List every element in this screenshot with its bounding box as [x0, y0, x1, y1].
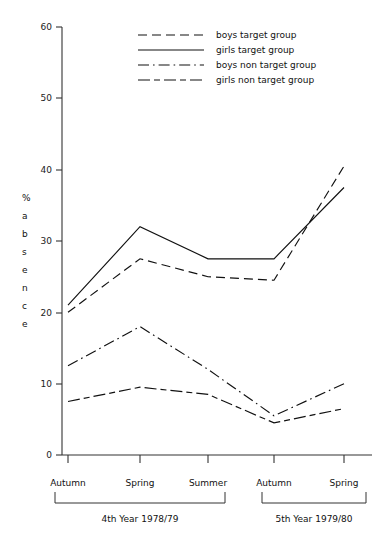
absence-line-chart: 60 50 40 30 20 10 0 % a b s e n c e — [0, 0, 381, 551]
data-series-group — [68, 166, 344, 423]
group-brackets: 4th Year 1978/79 5th Year 1979/80 — [55, 492, 366, 524]
x-axis — [62, 455, 372, 463]
y-tick-label-60: 60 — [41, 22, 53, 32]
y-tick-label-20: 20 — [41, 308, 53, 318]
x-category-label-2: Summer — [189, 478, 227, 488]
legend-label-girls-target-group: girls target group — [216, 45, 295, 55]
x-category-label-4: Spring — [329, 478, 358, 488]
x-category-labels: Autumn Spring Summer Autumn Spring — [50, 478, 358, 488]
y-axis-title-char-2: b — [22, 229, 28, 239]
y-tick-label-10: 10 — [41, 379, 53, 389]
group-bracket-5th-year — [262, 492, 366, 503]
y-axis-title-char-3: s — [22, 247, 27, 257]
x-category-label-1: Spring — [125, 478, 154, 488]
y-tick-label-0: 0 — [46, 450, 52, 460]
series-line-girls-non-target-group — [68, 387, 344, 423]
y-tick-label-40: 40 — [41, 165, 53, 175]
series-line-girls-target-group — [68, 188, 344, 306]
legend: boys target group girls target group boy… — [138, 30, 317, 85]
legend-label-boys-non-target-group: boys non target group — [216, 60, 317, 70]
legend-label-boys-target-group: boys target group — [216, 30, 297, 40]
y-axis-title-char-7: e — [22, 319, 28, 329]
y-axis-title-char-0: % — [22, 193, 31, 203]
group-label-5th-year: 5th Year 1979/80 — [275, 514, 352, 524]
group-label-4th-year: 4th Year 1978/79 — [101, 514, 178, 524]
y-axis-title: % a b s e n c e — [22, 193, 31, 329]
y-axis: 60 50 40 30 20 10 0 — [41, 22, 62, 460]
y-axis-title-char-4: e — [22, 265, 28, 275]
x-category-label-3: Autumn — [256, 478, 292, 488]
y-tick-label-50: 50 — [41, 93, 53, 103]
legend-label-girls-non-target-group: girls non target group — [216, 75, 314, 85]
series-line-boys-non-target-group — [68, 327, 344, 416]
y-axis-title-char-5: n — [22, 283, 28, 293]
y-axis-title-char-1: a — [22, 211, 28, 221]
chart-svg: 60 50 40 30 20 10 0 % a b s e n c e — [0, 0, 381, 551]
y-tick-label-30: 30 — [41, 236, 53, 246]
x-category-label-0: Autumn — [50, 478, 86, 488]
y-axis-title-char-6: c — [22, 301, 27, 311]
group-bracket-4th-year — [55, 492, 225, 503]
series-line-boys-target-group — [68, 166, 344, 312]
